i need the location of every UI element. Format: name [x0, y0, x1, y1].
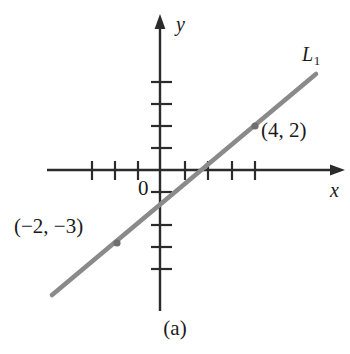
figure-caption: (a) [0, 318, 350, 339]
figure-container: y x 0 L1 (4, 2) (−2, −3) (a) [0, 0, 350, 354]
x-axis-label: x [330, 180, 339, 200]
point-label-neg2-neg3: (−2, −3) [14, 216, 83, 237]
data-point-4-2 [251, 122, 258, 129]
plotted-line-L1 [52, 74, 316, 295]
y-axis-arrowhead [155, 14, 166, 29]
y-axis-ticks [151, 82, 172, 269]
line-label-subscript: 1 [314, 53, 321, 68]
origin-label: 0 [138, 178, 149, 199]
line-label-L1: L1 [302, 44, 320, 67]
coordinate-plane-graph [0, 0, 350, 354]
line-label-base: L [302, 43, 313, 65]
y-axis-label: y [176, 14, 185, 34]
data-point-neg2-neg3 [113, 239, 120, 246]
point-label-4-2: (4, 2) [261, 120, 307, 141]
x-axis-arrowhead [330, 165, 345, 176]
